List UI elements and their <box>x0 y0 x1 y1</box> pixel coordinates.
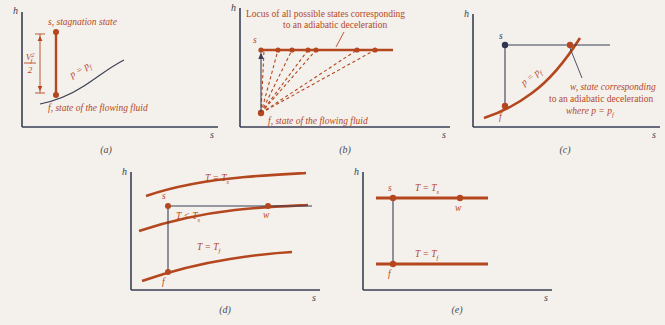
panel-e-isotherm-top-label-text: T = T <box>415 183 437 193</box>
panel-d-isotherm-middle-label: T < Ts <box>176 211 201 223</box>
panel-b-caption: (b) <box>339 144 351 156</box>
panel-e-point-f <box>390 261 396 267</box>
panel-c-caption: (c) <box>559 144 571 156</box>
panel-e-y-axis-label: h <box>354 166 359 177</box>
panel-e-point-w-label: w <box>455 203 462 213</box>
panel-b-locus-label-line2: to an adiabatic deceleration <box>283 20 387 30</box>
panel-b-point-2 <box>289 47 294 52</box>
panel-d-caption: (d) <box>219 304 231 316</box>
panel-d-isotherm-bottom-label-text: T = T <box>197 242 219 252</box>
panel-d-point-w-label: w <box>263 210 270 220</box>
panel-c-w-state-line1: w, state corresponding <box>570 82 656 92</box>
panel-b-x-axis-label: s <box>442 129 446 140</box>
panel-d-x-axis-label: s <box>312 292 316 303</box>
panel-e-point-s-label: s <box>388 183 392 193</box>
panel-a-caption: (a) <box>100 144 112 156</box>
hs-diagram-svg: h s V2f 2 p = pf s, stagnation s <box>0 0 665 325</box>
panel-a-point-f <box>53 92 59 98</box>
ke-denominator: 2 <box>28 65 33 75</box>
panel-a-y-axis-label: h <box>13 5 18 16</box>
panel-c-w-state-line1-text: w, state corresponding <box>570 82 656 92</box>
panel-b-flowing-fluid-label-text: f, state of the flowing fluid <box>268 116 368 126</box>
panel-d-y-axis-label: h <box>122 166 127 177</box>
panel-a-x-axis-label: s <box>210 129 214 140</box>
panel-a-flowing-fluid-label-text: f, state of the flowing fluid <box>48 103 148 113</box>
panel-e-point-w <box>457 195 463 201</box>
panel-e-x-axis-label: s <box>544 292 548 303</box>
panel-d-isotherm-bottom-label: T = Tf <box>197 242 222 254</box>
panel-d-point-w <box>265 203 271 209</box>
panel-b-point-s-label: s <box>253 35 257 45</box>
panel-d-point-f <box>165 269 171 275</box>
panel-e-isotherm-top-label: T = Ts <box>415 183 440 195</box>
panel-a-flowing-fluid-label: f, state of the flowing fluid <box>48 103 148 113</box>
panel-d-isotherm-middle-label-text: T < T <box>176 211 198 221</box>
panel-e-isotherm-bottom-label-text: T = T <box>415 249 437 259</box>
panel-b-flowing-fluid-label: f, state of the flowing fluid <box>268 116 368 126</box>
panel-c-w-state-line3: where p = pf <box>566 106 615 118</box>
thermodynamics-figure: h s V2f 2 p = pf s, stagnation s <box>0 0 665 325</box>
panel-a-stagnation-label: s, stagnation state <box>48 17 117 27</box>
panel-c-y-axis-label: h <box>464 8 469 19</box>
panel-d-isotherm-top-label-text: T = T <box>205 173 227 183</box>
panel-c-point-w <box>567 42 573 48</box>
panel-d-point-s-label: s <box>162 191 166 201</box>
panel-b-point-1 <box>275 47 280 52</box>
figure-background <box>0 0 665 325</box>
panel-e-caption: (e) <box>451 304 463 316</box>
panel-d-point-s <box>165 203 171 209</box>
panel-c-point-f <box>502 103 508 109</box>
panel-e-isotherm-bottom-label: T = Tf <box>415 249 440 261</box>
panel-b-point-s <box>258 47 263 52</box>
panel-e-point-s <box>390 195 396 201</box>
panel-b-point-6 <box>372 47 377 52</box>
panel-b-point-3 <box>305 47 310 52</box>
panel-c-point-s <box>502 42 508 48</box>
panel-d-isotherm-top-label: T = Ts <box>205 173 230 185</box>
panel-c-x-axis-label: s <box>652 129 656 140</box>
panel-b-point-5 <box>354 47 359 52</box>
panel-a-point-s <box>53 29 59 35</box>
panel-a-stagnation-label-text: s, stagnation state <box>48 17 117 27</box>
panel-b-locus-label-line1: Locus of all possible states correspondi… <box>246 9 405 19</box>
panel-c-point-s-label: s <box>499 31 503 41</box>
panel-c-w-state-line3-text: where p = p <box>566 106 612 116</box>
panel-b-y-axis-label: h <box>231 2 236 13</box>
panel-c-w-state-line2: to an adiabatic deceleration <box>549 94 653 104</box>
panel-b-point-4 <box>313 47 318 52</box>
